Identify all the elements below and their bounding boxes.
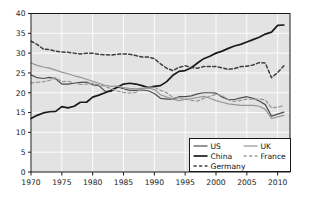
legend-label-uk: UK	[261, 142, 273, 151]
x-tick-label: 1975	[52, 178, 71, 187]
x-tick-label: 1980	[83, 178, 102, 187]
x-tick-label: 1995	[176, 178, 195, 187]
legend-label-germany: Germany	[211, 162, 246, 171]
y-tick-label: 25	[16, 69, 26, 78]
x-tick-label: 2000	[206, 178, 225, 187]
x-tick-label: 2010	[268, 178, 287, 187]
y-tick-label: 35	[16, 29, 26, 38]
legend-label-china: China	[211, 152, 233, 161]
x-tick-label: 1990	[145, 178, 164, 187]
line-chart: 0510152025303540 19701975198019851990199…	[0, 0, 310, 203]
x-tick-label: 1970	[21, 178, 40, 187]
y-tick-label: 10	[16, 128, 26, 137]
legend-label-us: US	[211, 142, 222, 151]
legend: USUKChinaFranceGermany	[190, 139, 291, 172]
x-tick-label: 2005	[237, 178, 256, 187]
legend-label-france: France	[261, 152, 287, 161]
y-tick-label: 15	[16, 108, 26, 117]
x-tick-label: 1985	[114, 178, 133, 187]
y-tick-label: 30	[16, 49, 26, 58]
y-tick-label: 5	[21, 148, 26, 157]
chart-canvas: 0510152025303540 19701975198019851990199…	[0, 0, 310, 203]
y-tick-label: 40	[16, 9, 26, 18]
y-tick-label: 0	[21, 168, 26, 177]
y-tick-label: 20	[16, 89, 26, 98]
